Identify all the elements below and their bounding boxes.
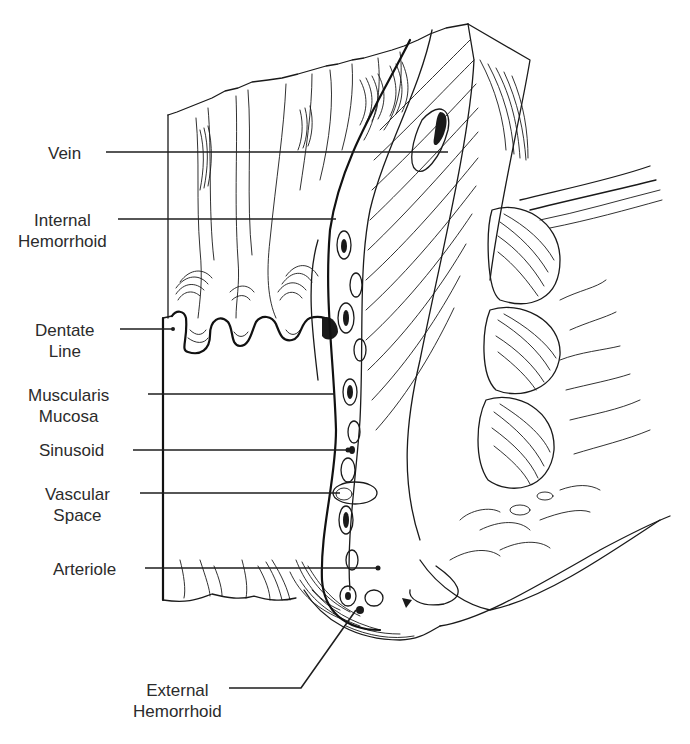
label-vascular-space: Vascular Space bbox=[45, 484, 110, 526]
label-dentate-line: Dentate Line bbox=[35, 320, 95, 362]
caption-cutoff: ​ bbox=[0, 736, 690, 744]
label-muscularis-mucosa: Muscularis Mucosa bbox=[28, 385, 109, 427]
internal-sphincter bbox=[366, 24, 530, 540]
label-external-hemorrhoid: External Hemorrhoid bbox=[133, 680, 222, 722]
mucosa-outline bbox=[163, 24, 468, 600]
label-sinusoid: Sinusoid bbox=[39, 440, 104, 461]
label-arteriole: Arteriole bbox=[53, 559, 116, 580]
leader-lines bbox=[106, 152, 448, 688]
perianal-skin bbox=[410, 486, 670, 627]
hemorrhoid-anatomy-illustration bbox=[0, 0, 690, 744]
label-internal-hemorrhoid: Internal Hemorrhoid bbox=[18, 210, 107, 252]
label-vein: Vein bbox=[48, 143, 81, 164]
external-sphincter bbox=[478, 166, 662, 488]
leader-external-hemorrhoid bbox=[229, 610, 356, 688]
lower-anoderm bbox=[163, 560, 440, 640]
